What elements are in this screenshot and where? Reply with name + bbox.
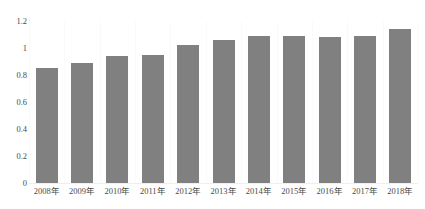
- y-tick-label: 0.4: [1, 125, 27, 134]
- bar: [71, 63, 93, 183]
- bar: [177, 45, 199, 183]
- y-tick-label: 0.2: [1, 152, 27, 161]
- x-tick-label: 2012年: [175, 186, 201, 196]
- x-axis-line: [29, 183, 418, 184]
- y-tick-label: 1: [1, 44, 27, 53]
- x-tick-label: 2013年: [211, 186, 237, 196]
- bar: [106, 56, 128, 183]
- x-axis-tick-labels: 2008年2009年2010年2011年2012年2013年2014年2015年…: [29, 186, 418, 206]
- y-tick-label: 0: [1, 179, 27, 188]
- y-tick-label: 1.2: [1, 17, 27, 26]
- y-tick-label: 0.6: [1, 98, 27, 107]
- y-tick-label: 0.8: [1, 71, 27, 80]
- bar: [248, 36, 270, 183]
- bar: [213, 40, 235, 183]
- x-tick-label: 2014年: [246, 186, 272, 196]
- x-tick-label: 2008年: [34, 186, 60, 196]
- bar-chart: 00.20.40.60.811.2 2008年2009年2010年2011年20…: [0, 0, 425, 209]
- bar-series: [29, 21, 418, 183]
- plot-area: [29, 21, 418, 183]
- bar: [283, 36, 305, 183]
- x-tick-label: 2018年: [387, 186, 413, 196]
- x-tick-label: 2016年: [317, 186, 343, 196]
- x-tick-label: 2015年: [281, 186, 307, 196]
- x-tick-label: 2010年: [104, 186, 130, 196]
- bar: [319, 37, 341, 183]
- bar: [142, 55, 164, 183]
- vertical-gridline: [418, 21, 419, 183]
- x-tick-label: 2017年: [352, 186, 378, 196]
- x-tick-label: 2011年: [140, 186, 166, 196]
- x-tick-label: 2009年: [69, 186, 95, 196]
- bar: [389, 29, 411, 183]
- y-axis-tick-labels: 00.20.40.60.811.2: [0, 0, 27, 209]
- bar: [354, 36, 376, 183]
- bar: [36, 68, 58, 183]
